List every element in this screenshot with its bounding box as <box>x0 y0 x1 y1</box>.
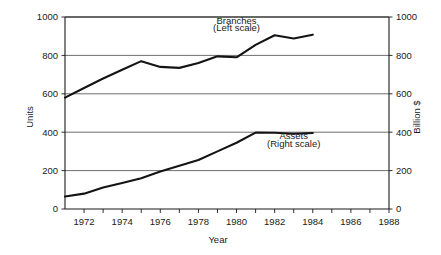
x-tick-label: 1974 <box>112 216 133 227</box>
y-right-tick-label: 1000 <box>396 11 417 22</box>
y-axis-right-title: Billion $ <box>411 100 422 134</box>
x-tick-label: 1976 <box>150 216 171 227</box>
annotation-label: (Left scale) <box>213 22 260 33</box>
y-right-tick-label: 600 <box>396 88 412 99</box>
y-right-tick-label: 800 <box>396 50 412 61</box>
y-axis-left-title: Units <box>24 106 35 128</box>
y-left-tick-label: 800 <box>42 50 58 61</box>
chart-container: 02004006008001000 02004006008001000 1972… <box>0 0 441 255</box>
y-right-tick-label: 0 <box>396 203 401 214</box>
x-axis-title: Year <box>208 234 227 245</box>
y-left-tick-label: 400 <box>42 127 58 138</box>
x-tick-label: 1988 <box>378 216 399 227</box>
y-left-tick-label: 200 <box>42 165 58 176</box>
x-tick-label: 1978 <box>188 216 209 227</box>
x-tick-label: 1982 <box>264 216 285 227</box>
annotation-label: (Right scale) <box>267 138 320 149</box>
y-left-tick-label: 0 <box>53 203 58 214</box>
x-tick-label: 1984 <box>302 216 323 227</box>
y-left-tick-label: 600 <box>42 88 58 99</box>
chart-background <box>0 0 441 255</box>
line-chart: 02004006008001000 02004006008001000 1972… <box>0 0 441 255</box>
x-tick-label: 1980 <box>226 216 247 227</box>
x-tick-label: 1972 <box>73 216 94 227</box>
x-axis-labels: 197219741976197819801982198419861988 <box>73 216 399 227</box>
x-tick-label: 1986 <box>340 216 361 227</box>
y-left-tick-label: 1000 <box>37 11 58 22</box>
y-right-tick-label: 200 <box>396 165 412 176</box>
y-right-tick-label: 400 <box>396 127 412 138</box>
